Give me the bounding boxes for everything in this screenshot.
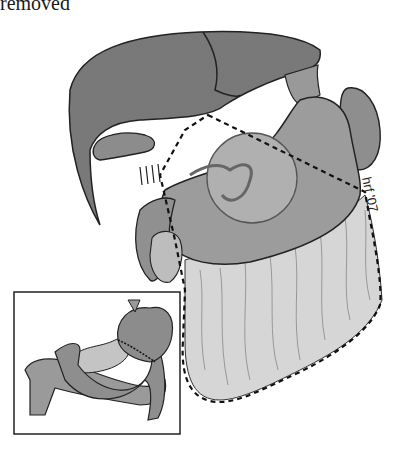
pancreas-head: [150, 231, 182, 282]
reconstruction-inset: [14, 292, 180, 434]
ligament-lines: [140, 164, 160, 185]
anatomy-illustration: hrf '07: [0, 0, 404, 452]
